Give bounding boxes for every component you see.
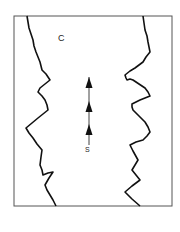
arrow-up-icon xyxy=(86,101,93,112)
region-label-c: C xyxy=(58,34,65,43)
arrow-up-icon xyxy=(86,77,93,88)
source-label-s: S xyxy=(85,146,90,153)
arrow-up-icon xyxy=(86,124,93,135)
left-boundary-trace xyxy=(26,16,56,206)
channel-diagram xyxy=(0,0,180,232)
flow-arrows xyxy=(86,77,93,135)
right-boundary-trace xyxy=(125,16,150,206)
